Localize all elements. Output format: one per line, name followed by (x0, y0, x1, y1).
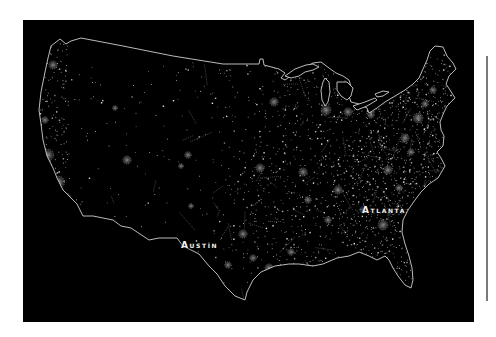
city-label-austin: Austin (181, 240, 218, 250)
map-panel (23, 20, 474, 322)
city-label-atlanta: Atlanta (362, 205, 406, 215)
side-bar-line (486, 56, 488, 301)
us-border (39, 38, 456, 300)
us-density-map (23, 20, 474, 322)
great-lakes (285, 64, 389, 110)
density-dots (23, 20, 474, 322)
